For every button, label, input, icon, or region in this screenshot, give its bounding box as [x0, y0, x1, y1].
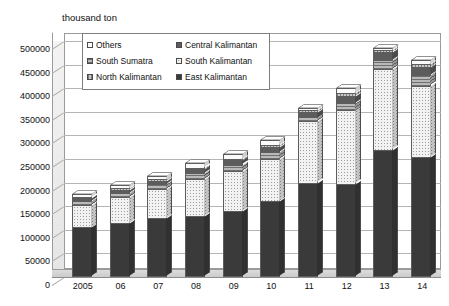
- legend-item[interactable]: North Kalimantan: [87, 72, 176, 82]
- stacked-bar[interactable]: [411, 60, 431, 277]
- bar-segment: [373, 60, 393, 69]
- legend-item[interactable]: South Kalimantan: [176, 56, 265, 66]
- bar-segment-side: [166, 215, 172, 276]
- x-axis-tick-label: 11: [289, 281, 329, 291]
- legend-label: South Kalimantan: [185, 56, 252, 66]
- bar-group[interactable]: [373, 41, 393, 277]
- stacked-bar[interactable]: [373, 48, 393, 277]
- bar-segment-side: [242, 208, 248, 276]
- x-axis-labels: 2005060708091011121314: [0, 281, 449, 301]
- legend-label: North Kalimantan: [96, 72, 162, 82]
- x-axis-tick-label: 14: [402, 281, 442, 291]
- legend-label: Central Kalimantan: [185, 40, 257, 50]
- x-axis-tick-label: 07: [138, 281, 178, 291]
- legend-label: East Kalimantan: [185, 72, 247, 82]
- bar-segment: [336, 96, 356, 103]
- stacked-bar[interactable]: [260, 140, 280, 277]
- stacked-bar[interactable]: [298, 108, 318, 277]
- bar-segment-side: [279, 156, 285, 201]
- bar-segment: [336, 184, 356, 277]
- bar-segment-side: [317, 118, 323, 182]
- bar-segment: [336, 103, 356, 111]
- bar-segment-side: [430, 154, 436, 276]
- stacked-bar[interactable]: [147, 176, 167, 277]
- bar-segment: [147, 218, 167, 277]
- legend-swatch-icon: [87, 58, 93, 64]
- bar-segment: [373, 52, 393, 60]
- bar-segment: [260, 159, 280, 201]
- y-axis-tick-label: 250000: [2, 162, 50, 172]
- bar-segment: [411, 67, 431, 75]
- legend-row: North KalimantanEast Kalimantan: [87, 69, 265, 85]
- bar-segment: [411, 75, 431, 85]
- chart-legend: OthersCentral KalimantanSouth SumatraSou…: [82, 33, 270, 90]
- bar-segment-side: [204, 176, 210, 216]
- legend-swatch-icon: [87, 42, 93, 48]
- bar-segment: [72, 205, 92, 228]
- bar-group[interactable]: [336, 41, 356, 277]
- bar-group[interactable]: [298, 41, 318, 277]
- y-axis-tick-label: 350000: [2, 115, 50, 125]
- bar-segment: [411, 157, 431, 277]
- bar-segment-side: [355, 107, 361, 183]
- legend-swatch-icon: [176, 58, 182, 64]
- bar-segment: [185, 179, 205, 216]
- y-axis-tick-label: 150000: [2, 209, 50, 219]
- bar-segment-side: [204, 213, 210, 276]
- legend-item[interactable]: Central Kalimantan: [176, 40, 265, 50]
- legend-row: South SumatraSouth Kalimantan: [87, 53, 265, 69]
- stacked-bar-chart: thousand ton 050000100000150000200000250…: [0, 0, 449, 306]
- bar-segment: [147, 189, 167, 218]
- bar-segment: [223, 171, 243, 211]
- legend-item[interactable]: South Sumatra: [87, 56, 176, 66]
- stacked-bar[interactable]: [72, 194, 92, 277]
- bar-segment: [336, 110, 356, 183]
- legend-row: OthersCentral Kalimantan: [87, 37, 265, 53]
- bar-segment: [373, 150, 393, 277]
- bar-segment: [373, 69, 393, 149]
- bar-segment-side: [166, 186, 172, 218]
- stacked-bar[interactable]: [223, 154, 243, 277]
- x-axis-tick-label: 12: [327, 281, 367, 291]
- x-axis-tick-label: 13: [364, 281, 404, 291]
- y-axis-tick-label: 200000: [2, 186, 50, 196]
- legend-label: Others: [96, 40, 122, 50]
- legend-swatch-icon: [87, 74, 93, 80]
- bar-segment-side: [392, 66, 398, 149]
- x-axis-tick-label: 2005: [63, 281, 103, 291]
- legend-item[interactable]: East Kalimantan: [176, 72, 265, 82]
- bar-segment-side: [392, 147, 398, 276]
- bar-segment: [411, 86, 431, 157]
- y-axis-tick-label: 500000: [2, 44, 50, 54]
- bar-segment-side: [317, 180, 323, 276]
- stacked-bar[interactable]: [336, 88, 356, 277]
- bar-segment: [260, 152, 280, 159]
- bar-group[interactable]: [411, 41, 431, 277]
- bar-segment-side: [91, 225, 97, 276]
- y-axis-tick-label: 300000: [2, 138, 50, 148]
- bar-segment-side: [129, 194, 135, 223]
- bar-segment-side: [430, 83, 436, 157]
- y-axis-tick-label: 100000: [2, 233, 50, 243]
- y-axis-tick-label: 50000: [2, 256, 50, 266]
- bar-segment: [298, 183, 318, 277]
- y-axis-labels: 0500001000001500002000002500003000003500…: [0, 0, 50, 306]
- bar-segment-side: [129, 220, 135, 276]
- bar-segment-side: [242, 168, 248, 211]
- legend-item[interactable]: Others: [87, 40, 176, 50]
- x-axis-tick-label: 08: [176, 281, 216, 291]
- bar-segment: [72, 227, 92, 277]
- bar-segment: [260, 201, 280, 277]
- y-axis-tick-label: 450000: [2, 68, 50, 78]
- x-axis-tick-label: 06: [101, 281, 141, 291]
- stacked-bar[interactable]: [185, 163, 205, 277]
- bar-segment: [110, 197, 130, 223]
- bar-segment: [110, 223, 130, 277]
- x-axis-tick-label: 09: [214, 281, 254, 291]
- legend-label: South Sumatra: [96, 56, 153, 66]
- legend-swatch-icon: [176, 74, 182, 80]
- y-axis-unit-label: thousand ton: [62, 12, 117, 23]
- x-axis-tick-label: 10: [251, 281, 291, 291]
- bar-segment: [298, 121, 318, 182]
- stacked-bar[interactable]: [110, 185, 130, 277]
